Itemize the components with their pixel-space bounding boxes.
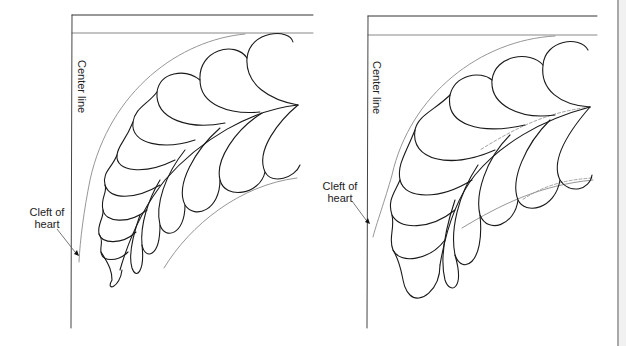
left-leader-arrow [57, 229, 79, 256]
arrowhead-icon [74, 250, 79, 256]
leader-arrows [0, 0, 626, 346]
right-leader-arrow [352, 201, 370, 224]
page-edge-bar [617, 0, 626, 346]
arrowhead-icon [365, 218, 370, 224]
